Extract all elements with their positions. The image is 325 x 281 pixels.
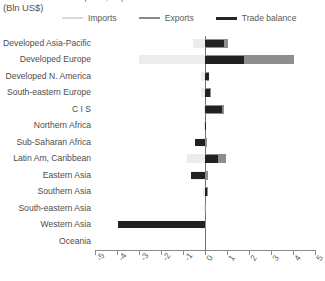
x-tick-label: 2 <box>248 253 259 263</box>
legend-label-imports: Imports <box>88 13 117 23</box>
bar-trade-balance <box>205 188 207 196</box>
chart-legend: Imports Exports Trade balance <box>62 13 296 23</box>
chart-title-clipped: Imports, exports and trade balance <box>0 0 320 5</box>
chart-row <box>95 135 315 150</box>
bar-trade-balance <box>195 139 205 147</box>
category-label: Oceania <box>0 234 91 249</box>
category-label: C I S <box>0 102 91 117</box>
x-tick-label: 3 <box>270 253 281 263</box>
line-swatch-icon <box>139 17 160 19</box>
category-label: Eastern Asia <box>0 168 91 183</box>
chart-title-text: Imports, exports and trade balance <box>74 0 221 2</box>
category-label: Northern Africa <box>0 118 91 133</box>
line-swatch-icon <box>216 17 237 20</box>
category-label: Developed N. America <box>0 69 91 84</box>
bar-exports <box>205 138 207 147</box>
legend-item-imports: Imports <box>62 13 117 23</box>
chart-row <box>95 52 315 67</box>
bar-imports <box>139 55 205 64</box>
category-label: Southern Asia <box>0 184 91 199</box>
category-label: Western Asia <box>0 217 91 232</box>
chart-row <box>95 234 315 249</box>
bar-imports <box>187 154 205 163</box>
chart-row <box>95 69 315 84</box>
chart-row <box>95 168 315 183</box>
bar-trade-balance <box>205 73 209 81</box>
bar-exports <box>205 171 208 180</box>
line-swatch-icon <box>62 17 83 19</box>
chart-row <box>95 151 315 166</box>
legend-item-exports: Exports <box>139 13 194 23</box>
x-tick-label: -1 <box>182 251 194 263</box>
x-tick-label: 4 <box>292 253 303 263</box>
x-tick-label: 1 <box>226 253 237 263</box>
category-label: Latin Am, Caribbean <box>0 151 91 166</box>
category-axis-labels: Developed Asia-PacificDeveloped EuropeDe… <box>0 36 91 250</box>
bar-trade-balance <box>205 155 218 163</box>
x-tick-label: -2 <box>160 251 172 263</box>
bar-trade-balance <box>205 56 244 64</box>
category-label: Sub-Saharan Africa <box>0 135 91 150</box>
bar-trade-balance <box>205 122 206 130</box>
chart-row <box>95 85 315 100</box>
bar-trade-balance <box>205 106 222 114</box>
x-tick-label: 0 <box>204 253 215 263</box>
bar-imports <box>193 39 205 48</box>
chart-row <box>95 201 315 216</box>
bar-trade-balance <box>205 89 210 97</box>
chart-row <box>95 184 315 199</box>
chart-row <box>95 102 315 117</box>
bar-trade-balance <box>118 221 205 229</box>
x-tick-label: -4 <box>116 251 128 263</box>
bar-trade-balance <box>191 172 205 180</box>
category-label: Developed Asia-Pacific <box>0 36 91 51</box>
bar-trade-balance <box>205 40 224 48</box>
legend-label-exports: Exports <box>165 13 194 23</box>
plot-area <box>95 36 315 250</box>
category-label: South-eastern Asia <box>0 201 91 216</box>
units-label: (Bln US$) <box>3 2 43 13</box>
chart-row <box>95 118 315 133</box>
x-tick-label: -5 <box>94 251 106 263</box>
category-label: Developed Europe <box>0 52 91 67</box>
chart-row <box>95 217 315 232</box>
bar-exports <box>205 204 206 213</box>
chart-row <box>95 36 315 51</box>
x-tick-label: 5 <box>314 253 325 263</box>
legend-item-trade-balance: Trade balance <box>216 13 297 23</box>
x-tick-label: -3 <box>138 251 150 263</box>
legend-label-trade-balance: Trade balance <box>242 13 297 23</box>
category-label: South-eastern Europe <box>0 85 91 100</box>
bar-exports <box>205 220 206 229</box>
